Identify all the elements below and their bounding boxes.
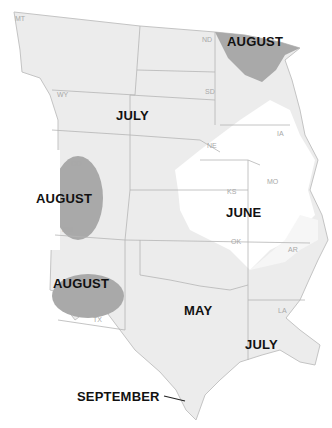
september-leader-line bbox=[0, 0, 332, 428]
